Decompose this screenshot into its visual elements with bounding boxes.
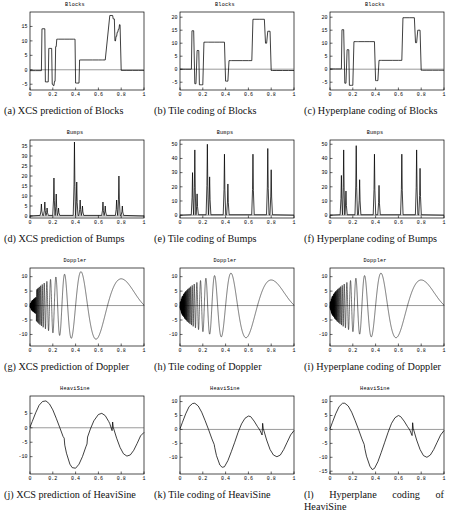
figure-row: Bumps 00.20.40.60.8105101520253035 (d) X… xyxy=(0,128,450,256)
svg-text:50: 50 xyxy=(321,142,327,148)
svg-text:10: 10 xyxy=(21,274,27,280)
panel-caption-g: (g) XCS prediction of Doppler xyxy=(0,360,150,384)
plot-svg-h: 00.20.40.60.81-10-50510 xyxy=(150,256,300,360)
svg-text:20: 20 xyxy=(321,185,327,191)
svg-text:-10: -10 xyxy=(168,332,177,338)
svg-text:10: 10 xyxy=(21,194,27,200)
svg-text:-5: -5 xyxy=(321,318,327,324)
svg-text:0.2: 0.2 xyxy=(198,92,207,98)
svg-text:0.8: 0.8 xyxy=(417,476,426,482)
panel-caption-i: (i) Hyperplane coding of Doppler xyxy=(300,360,450,384)
panel-caption-f: (f) Hyperplane coding of Bumps xyxy=(300,232,450,256)
svg-text:0: 0 xyxy=(324,67,327,73)
svg-text:-5: -5 xyxy=(171,318,177,324)
svg-text:1: 1 xyxy=(442,348,445,354)
svg-text:40: 40 xyxy=(171,156,177,162)
svg-text:0.6: 0.6 xyxy=(394,476,403,482)
svg-text:5: 5 xyxy=(24,289,27,295)
svg-text:30: 30 xyxy=(321,170,327,176)
plot-svg-e: 00.20.40.60.8101020304050 xyxy=(150,128,300,232)
svg-text:0.2: 0.2 xyxy=(48,476,57,482)
svg-text:0.8: 0.8 xyxy=(117,476,126,482)
svg-text:1: 1 xyxy=(292,348,295,354)
svg-text:10: 10 xyxy=(171,199,177,205)
svg-text:0.6: 0.6 xyxy=(94,348,103,354)
panel-c: Blocks 00.20.40.60.81-505101520 (c) Hype… xyxy=(300,0,450,128)
panel-g: Doppler 00.20.40.60.81-10-50510 (g) XCS … xyxy=(0,256,150,384)
panel-caption-e: (e) Tile coding of Bumps xyxy=(150,232,300,256)
panel-h: Doppler 00.20.40.60.81-10-50510 (h) Tile… xyxy=(150,256,300,384)
svg-text:10: 10 xyxy=(171,274,177,280)
svg-text:0.4: 0.4 xyxy=(221,348,230,354)
svg-text:40: 40 xyxy=(321,156,327,162)
svg-text:0.8: 0.8 xyxy=(117,220,126,226)
svg-text:-10: -10 xyxy=(318,332,327,338)
svg-text:0.4: 0.4 xyxy=(221,220,230,226)
svg-text:0: 0 xyxy=(174,67,177,73)
svg-text:0.6: 0.6 xyxy=(94,92,103,98)
svg-text:20: 20 xyxy=(171,185,177,191)
plot-k: HeaviSine 00.20.40.60.81-10-50510 xyxy=(150,384,300,488)
svg-text:0.6: 0.6 xyxy=(94,476,103,482)
svg-text:0.2: 0.2 xyxy=(48,348,57,354)
panel-caption-d: (d) XCS prediction of Bumps xyxy=(0,232,150,256)
svg-text:5: 5 xyxy=(324,413,327,419)
svg-text:0.2: 0.2 xyxy=(348,348,357,354)
panel-k: HeaviSine 00.20.40.60.81-10-50510 (k) Ti… xyxy=(150,384,300,512)
svg-text:0: 0 xyxy=(324,427,327,433)
svg-text:0.8: 0.8 xyxy=(417,92,426,98)
panel-caption-b: (b) Tile coding of Blocks xyxy=(150,104,300,128)
svg-text:0.2: 0.2 xyxy=(348,220,357,226)
svg-text:0: 0 xyxy=(324,213,327,219)
svg-text:0.2: 0.2 xyxy=(198,348,207,354)
svg-text:20: 20 xyxy=(21,174,27,180)
panel-e: Bumps 00.20.40.60.8101020304050 (e) Tile… xyxy=(150,128,300,256)
svg-text:-5: -5 xyxy=(171,441,177,447)
svg-text:0.8: 0.8 xyxy=(417,348,426,354)
svg-text:0: 0 xyxy=(178,348,181,354)
svg-text:5: 5 xyxy=(174,289,177,295)
svg-text:0.8: 0.8 xyxy=(267,220,276,226)
svg-text:-10: -10 xyxy=(318,455,327,461)
panel-j: HeaviSine 00.20.40.60.81-10-505 (j) XCS … xyxy=(0,384,150,512)
panel-a: Blocks 00.20.40.60.81-5051015 (a) XCS pr… xyxy=(0,0,150,128)
svg-text:10: 10 xyxy=(21,39,27,45)
panel-b: Blocks 00.20.40.60.81-505101520 (b) Tile… xyxy=(150,0,300,128)
svg-text:-5: -5 xyxy=(21,82,27,88)
svg-text:10: 10 xyxy=(321,399,327,405)
svg-text:1: 1 xyxy=(142,476,145,482)
svg-text:50: 50 xyxy=(171,142,177,148)
svg-text:0: 0 xyxy=(328,348,331,354)
svg-text:0.2: 0.2 xyxy=(198,220,207,226)
svg-text:0: 0 xyxy=(24,426,27,432)
plot-svg-b: 00.20.40.60.81-505101520 xyxy=(150,0,300,104)
plot-svg-i: 00.20.40.60.81-10-50510 xyxy=(300,256,450,360)
svg-text:-5: -5 xyxy=(21,440,27,446)
svg-text:1: 1 xyxy=(442,220,445,226)
svg-text:0.6: 0.6 xyxy=(244,476,253,482)
svg-text:0.2: 0.2 xyxy=(48,92,57,98)
plot-l: HeaviSine 00.20.40.60.81-15-10-50510 xyxy=(300,384,450,488)
svg-text:0: 0 xyxy=(28,92,31,98)
svg-text:0.4: 0.4 xyxy=(221,92,230,98)
plot-i: Doppler 00.20.40.60.81-10-50510 xyxy=(300,256,450,360)
plot-svg-j: 00.20.40.60.81-10-505 xyxy=(0,384,150,488)
svg-text:5: 5 xyxy=(24,411,27,417)
svg-text:0.4: 0.4 xyxy=(71,220,80,226)
svg-text:0: 0 xyxy=(328,92,331,98)
svg-text:-10: -10 xyxy=(168,455,177,461)
svg-text:-10: -10 xyxy=(18,454,27,460)
svg-text:0: 0 xyxy=(28,220,31,226)
svg-text:0: 0 xyxy=(28,476,31,482)
svg-text:0.8: 0.8 xyxy=(117,92,126,98)
svg-text:0: 0 xyxy=(178,92,181,98)
svg-text:25: 25 xyxy=(21,164,27,170)
svg-text:5: 5 xyxy=(174,54,177,60)
svg-text:35: 35 xyxy=(21,144,27,150)
svg-text:1: 1 xyxy=(442,92,445,98)
panel-caption-h: (h) Tile coding of Doppler xyxy=(150,360,300,384)
panel-f: Bumps 00.20.40.60.8101020304050 (f) Hype… xyxy=(300,128,450,256)
plot-b: Blocks 00.20.40.60.81-505101520 xyxy=(150,0,300,104)
plot-svg-d: 00.20.40.60.8105101520253035 xyxy=(0,128,150,232)
svg-text:10: 10 xyxy=(321,274,327,280)
